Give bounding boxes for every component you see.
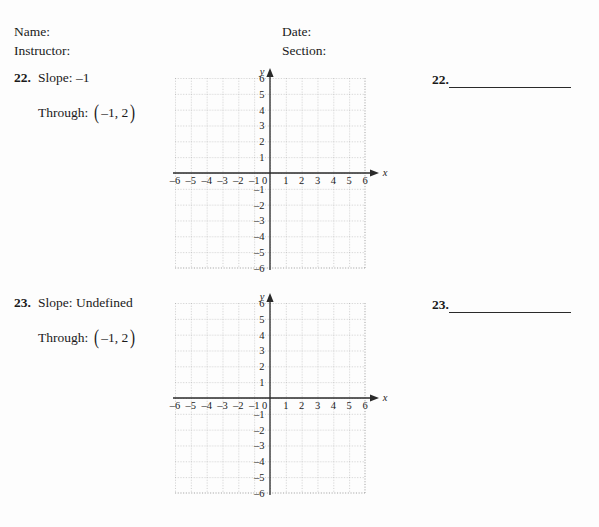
answer-23-number: 23.: [432, 297, 449, 313]
x-tick--6: –6: [169, 175, 181, 186]
right-paren: ): [130, 329, 135, 346]
answer-22-number: 22.: [432, 72, 449, 88]
x-tick-4: 4: [331, 400, 337, 411]
left-paren: (: [94, 104, 99, 121]
problem-23-through-label: Through:: [38, 330, 88, 346]
section-label: Section:: [282, 41, 326, 60]
left-paren: (: [94, 329, 99, 346]
y-axis-arrow: [266, 68, 273, 77]
problem-23-point: ( –1, 2 ): [93, 329, 136, 346]
y-tick-5: 5: [259, 314, 264, 325]
name-label: Name:: [14, 22, 282, 41]
x-tick--4: –4: [200, 400, 212, 411]
y-axis-arrow: [266, 293, 273, 302]
y-tick--2: –2: [253, 425, 265, 436]
problem-22-point: ( –1, 2 ): [93, 104, 136, 121]
x-tick--6: –6: [169, 400, 181, 411]
x-tick-3: 3: [315, 175, 320, 186]
problem-23-point-value: –1, 2: [100, 330, 129, 346]
y-tick-3: 3: [259, 120, 264, 131]
answer-blank-22[interactable]: 22.: [432, 72, 571, 88]
coordinate-plane-svg-22: y x –6 –5 –4 –3 –2 –1 0 1 2 3 4 5 6 6 5 …: [163, 66, 403, 291]
x-tick-1: 1: [283, 175, 288, 186]
y-tick-5: 5: [259, 89, 264, 100]
y-tick-6: 6: [259, 73, 264, 84]
y-tick-3: 3: [259, 345, 264, 356]
x-tick--2: –2: [232, 400, 244, 411]
right-paren: ): [130, 104, 135, 121]
y-tick--4: –4: [253, 231, 265, 242]
header-row-2: Instructor: Section:: [14, 41, 574, 60]
x-tick--5: –5: [185, 400, 197, 411]
problem-22-point-value: –1, 2: [100, 105, 129, 121]
x-tick-6: 6: [362, 400, 367, 411]
x-tick--3: –3: [216, 175, 228, 186]
x-axis-arrow: [370, 169, 379, 176]
x-tick-4: 4: [331, 175, 337, 186]
y-tick--5: –5: [253, 472, 265, 483]
x-tick--3: –3: [216, 400, 228, 411]
x-tick-5: 5: [347, 175, 352, 186]
problem-22-through-label: Through:: [38, 105, 88, 121]
date-label: Date:: [282, 22, 311, 41]
y-tick--6: –6: [253, 488, 265, 499]
x-tick-6: 6: [362, 175, 367, 186]
answer-22-rule[interactable]: [449, 74, 571, 88]
instructor-label: Instructor:: [14, 41, 282, 60]
y-tick-1: 1: [259, 377, 264, 388]
page-header: Name: Date: Instructor: Section:: [14, 22, 574, 60]
x-tick-1: 1: [283, 400, 288, 411]
x-tick--2: –2: [232, 175, 244, 186]
coordinate-grid-22: y x –6 –5 –4 –3 –2 –1 0 1 2 3 4 5 6 6 5 …: [163, 66, 403, 295]
y-tick--2: –2: [253, 200, 265, 211]
x-tick-3: 3: [315, 400, 320, 411]
problem-22-slope-text: Slope: –1: [38, 70, 89, 86]
coordinate-grid-23: y x –6 –5 –4 –3 –2 –1 0 1 2 3 4 5 6 6 5 …: [163, 291, 403, 520]
x-tick-2: 2: [299, 400, 304, 411]
y-tick--5: –5: [253, 247, 265, 258]
y-tick-4: 4: [259, 105, 265, 116]
problem-23-slope-line: 23. Slope: Undefined: [14, 295, 174, 311]
x-tick--5: –5: [185, 175, 197, 186]
header-row-1: Name: Date:: [14, 22, 574, 41]
problem-22-number: 22.: [14, 70, 38, 86]
y-tick-6: 6: [259, 298, 264, 309]
problem-23-slope-text: Slope: Undefined: [38, 295, 133, 311]
y-tick--1: –1: [253, 184, 265, 195]
problem-23-number: 23.: [14, 295, 38, 311]
coordinate-plane-svg-23: y x –6 –5 –4 –3 –2 –1 0 1 2 3 4 5 6 6 5 …: [163, 291, 403, 516]
problem-22-slope-line: 22. Slope: –1: [14, 70, 174, 86]
problem-23-through-line: Through: ( –1, 2 ): [38, 329, 174, 346]
x-tick-5: 5: [347, 400, 352, 411]
problem-23-prompt: 23. Slope: Undefined Through: ( –1, 2 ): [14, 295, 174, 346]
answer-blank-23[interactable]: 23.: [432, 297, 571, 313]
x-tick-2: 2: [299, 175, 304, 186]
answer-23-rule[interactable]: [449, 299, 571, 313]
x-axis-label: x: [382, 167, 388, 178]
problem-22-prompt: 22. Slope: –1 Through: ( –1, 2 ): [14, 70, 174, 121]
y-tick-1: 1: [259, 152, 264, 163]
x-axis-label: x: [382, 392, 388, 403]
y-tick-2: 2: [259, 361, 264, 372]
y-tick--3: –3: [253, 215, 265, 226]
x-axis-arrow: [370, 394, 379, 401]
y-tick--3: –3: [253, 440, 265, 451]
x-tick--4: –4: [200, 175, 212, 186]
y-tick-4: 4: [259, 330, 265, 341]
y-tick--4: –4: [253, 456, 265, 467]
y-tick--1: –1: [253, 409, 265, 420]
problem-22-through-line: Through: ( –1, 2 ): [38, 104, 174, 121]
y-tick--6: –6: [253, 263, 265, 274]
y-tick-2: 2: [259, 136, 264, 147]
